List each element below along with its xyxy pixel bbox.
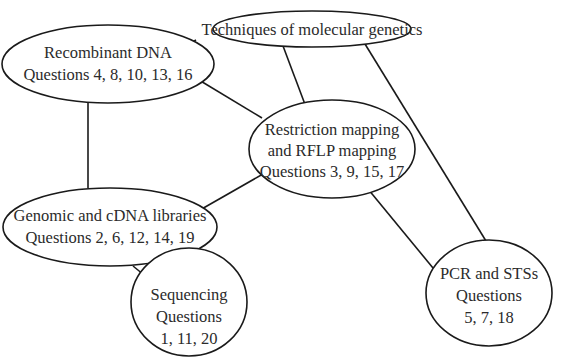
node-questions-label: Questions [456, 286, 522, 305]
node-recombinant-dna: Recombinant DNA Questions 4, 8, 10, 13, … [2, 25, 214, 103]
node-pcr-and-stss: PCR and STSs Questions 5, 7, 18 [426, 240, 552, 346]
node-questions: Questions 4, 8, 10, 13, 16 [23, 65, 192, 84]
node-techniques-of-molecular-genetics: Techniques of molecular genetics [201, 11, 422, 47]
edge-recombinant-restriction [199, 80, 262, 118]
node-label: Techniques of molecular genetics [201, 20, 422, 39]
node-title: Recombinant DNA [44, 43, 172, 62]
node-questions: Questions 3, 9, 15, 17 [260, 162, 404, 181]
node-title: Restriction mapping [265, 120, 399, 139]
node-questions: 5, 7, 18 [464, 308, 514, 327]
node-questions: 1, 11, 20 [160, 329, 217, 348]
node-sequencing: Sequencing Questions 1, 11, 20 [131, 248, 247, 356]
node-questions-label: Questions [156, 307, 222, 326]
node-questions: Questions 2, 6, 12, 14, 19 [25, 228, 194, 247]
node-restriction-mapping: Restriction mapping and RFLP mapping Que… [249, 100, 415, 198]
node-title: Sequencing [151, 285, 228, 304]
node-title: PCR and STSs [440, 264, 538, 283]
edge-root-restriction [283, 46, 306, 107]
concept-map: Techniques of molecular genetics Recombi… [0, 0, 567, 358]
edge-restriction-pcr [368, 189, 433, 268]
node-title: Genomic and cDNA libraries [14, 206, 207, 225]
node-subtitle: and RFLP mapping [268, 141, 397, 160]
